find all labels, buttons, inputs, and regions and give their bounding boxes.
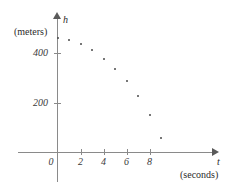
x-tick-label: 2 xyxy=(73,156,89,167)
x-tick-label: 6 xyxy=(119,156,135,167)
x-axis-title: t xyxy=(217,156,220,167)
y-tick-mark xyxy=(54,103,61,104)
x-tick-mark xyxy=(81,149,82,155)
scatter-plot-figure: h (meters) t (seconds) 0 2468 200400 xyxy=(0,0,248,188)
y-axis-arrow-icon xyxy=(53,12,61,19)
data-point xyxy=(68,39,70,41)
data-point xyxy=(80,43,82,45)
x-axis-unit-label: (seconds) xyxy=(180,169,218,180)
y-axis-title: h xyxy=(63,14,68,25)
data-point xyxy=(114,68,116,70)
data-point xyxy=(160,137,162,139)
data-point xyxy=(126,80,128,82)
x-tick-mark xyxy=(104,149,105,155)
y-axis-unit-label: (meters) xyxy=(14,26,47,37)
x-tick-mark xyxy=(127,149,128,155)
x-axis-arrow-icon xyxy=(212,148,219,156)
data-point xyxy=(137,95,139,97)
x-tick-mark xyxy=(150,149,151,155)
data-point xyxy=(149,114,151,116)
data-point xyxy=(103,58,105,60)
x-tick-label: 8 xyxy=(142,156,158,167)
y-tick-label: 200 xyxy=(22,97,48,108)
data-point xyxy=(57,37,59,39)
data-point xyxy=(91,49,93,51)
y-tick-mark xyxy=(54,53,61,54)
x-axis-line xyxy=(18,152,214,153)
y-tick-label: 400 xyxy=(22,47,48,58)
origin-tick-label: 0 xyxy=(44,156,58,167)
x-tick-label: 4 xyxy=(96,156,112,167)
